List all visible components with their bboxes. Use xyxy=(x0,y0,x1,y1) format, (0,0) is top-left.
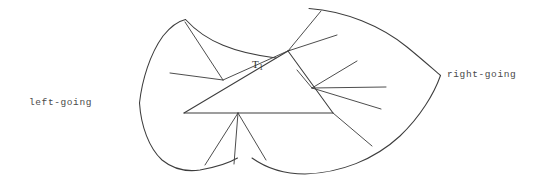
segment-right-fan-4 xyxy=(297,70,312,88)
label-left-going: left-going xyxy=(29,98,92,108)
segment-upper-left-fan-2 xyxy=(170,73,223,80)
outer-outline-group xyxy=(140,9,441,175)
segment-right-fan-1 xyxy=(312,61,357,88)
segment-base-fan-3 xyxy=(238,113,266,160)
label-triangle-t1: T1 xyxy=(252,59,262,70)
segment-apex-fan-1 xyxy=(288,11,321,51)
triangle-edge-left xyxy=(184,51,288,113)
label-triangle-letter: T xyxy=(252,58,259,70)
label-right-going: right-going xyxy=(447,70,516,80)
segment-base-fan-2 xyxy=(234,113,238,164)
outline-upper-right-arc xyxy=(309,9,441,76)
outline-upper-left-arc xyxy=(140,20,186,104)
figure-container: left-going right-going T1 xyxy=(0,0,549,186)
triangle-edge-right xyxy=(288,51,333,113)
outline-upper-left-to-apex xyxy=(186,20,277,59)
segment-upper-left-fan-1 xyxy=(185,22,223,80)
segment-base-fan-1 xyxy=(205,113,238,165)
segment-right-fan-2 xyxy=(312,87,386,88)
diagram-canvas xyxy=(0,0,549,186)
label-triangle-subscript: 1 xyxy=(259,63,263,72)
segment-right-vertex-fan-1 xyxy=(333,113,372,146)
segment-apex-fan-2 xyxy=(288,35,337,51)
